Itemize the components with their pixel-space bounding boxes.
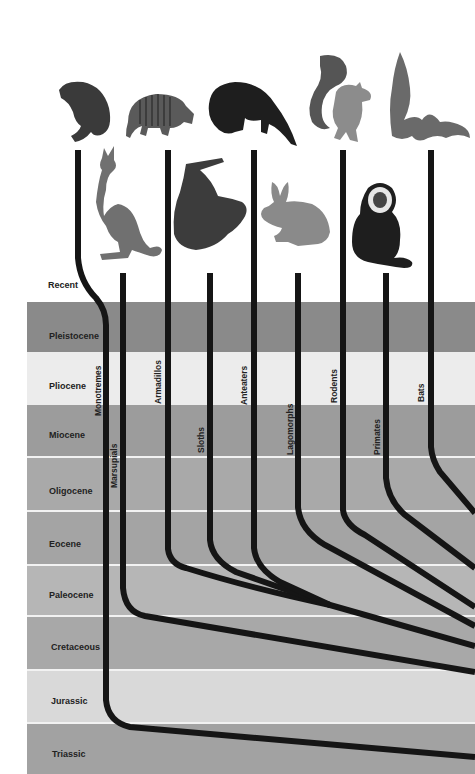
group-label-rodents: Rodents: [329, 369, 339, 403]
kangaroo-illustration: [88, 146, 166, 262]
platypus-illustration: [55, 72, 117, 142]
rabbit-illustration: [258, 180, 332, 250]
monkey-illustration: [348, 178, 418, 270]
group-label-primates: Primates: [372, 419, 382, 455]
group-label-lagomorphs: Lagomorphs: [285, 404, 295, 455]
group-label-bats: Bats: [416, 384, 426, 402]
group-label-sloths: Sloths: [196, 427, 206, 453]
sloth-illustration: [172, 156, 250, 252]
group-label-monotremes: Monotremes: [93, 365, 103, 416]
anteater-illustration: [205, 74, 300, 149]
armadillo-illustration: [120, 84, 196, 140]
group-label-anteaters: Anteaters: [239, 366, 249, 405]
branch-bats: [431, 150, 475, 513]
group-label-marsupials: Marsupials: [109, 444, 119, 488]
group-label-armadillos: Armadillos: [153, 360, 163, 404]
branch-sloths: [210, 273, 330, 605]
squirrel-illustration: [306, 52, 376, 148]
bat-illustration: [382, 48, 472, 148]
